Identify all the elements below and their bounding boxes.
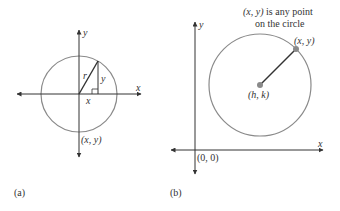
figure-a-caption: (a)	[14, 187, 25, 199]
figure-a: y x r y x (x, y) (a)	[14, 27, 141, 199]
figure-b-caption: (b)	[170, 187, 182, 199]
center-label: (h, k)	[248, 89, 270, 101]
y-axis-label-a: y	[82, 27, 88, 38]
center-point	[257, 82, 263, 88]
figure-b: (x, y) is any point on the circle y x (x…	[170, 6, 323, 199]
annotation-line-1: (x, y) is any point	[243, 6, 313, 18]
x-axis-label-b: x	[317, 138, 323, 149]
leg-y-label: y	[100, 73, 106, 84]
point-label-b: (x, y)	[294, 35, 315, 47]
point-label-a: (x, y)	[81, 134, 102, 146]
diagram-canvas: y x r y x (x, y) (a) (x, y) is any point…	[0, 0, 340, 211]
leg-x-label: x	[85, 95, 91, 106]
x-axis-label-a: x	[135, 82, 141, 93]
radius-line-b	[260, 49, 296, 85]
y-axis-label-b: y	[198, 19, 204, 30]
right-angle-marker	[92, 89, 98, 94]
annotation-line-2: on the circle	[255, 18, 305, 29]
radius-label: r	[83, 70, 87, 81]
origin-label: (0, 0)	[197, 152, 219, 164]
circle-point	[293, 46, 299, 52]
